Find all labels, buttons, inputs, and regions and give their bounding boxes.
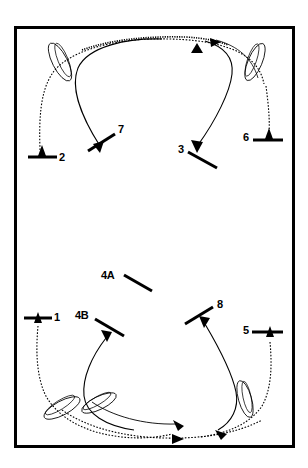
label-7: 7	[118, 124, 124, 135]
label-4A: 4A	[101, 270, 114, 281]
figure-container: 2 7 3 6 4A 1 4B 8 5	[0, 0, 308, 468]
trajectory-diagram	[0, 0, 308, 468]
label-4B: 4B	[75, 310, 88, 321]
label-8: 8	[217, 299, 223, 310]
label-5: 5	[243, 325, 249, 336]
figure-frame	[16, 28, 294, 447]
label-1: 1	[54, 312, 60, 323]
label-2: 2	[59, 152, 65, 163]
label-3: 3	[178, 144, 184, 155]
label-6: 6	[243, 132, 249, 143]
